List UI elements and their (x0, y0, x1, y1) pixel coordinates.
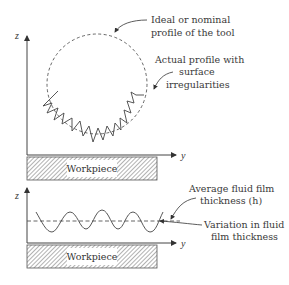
top-panel: z y Workpiece Ideal or nominal profile o… (14, 14, 244, 180)
tool-fluid-film-diagram: z y Workpiece Ideal or nominal profile o… (0, 0, 289, 285)
bottom-y-axis-label: y (180, 238, 186, 249)
bottom-panel: z y Workpiece Average fluid film thickne… (14, 183, 284, 268)
top-z-axis-label: z (14, 30, 19, 41)
actual-tool-profile (43, 91, 144, 142)
top-y-axis-label: y (180, 150, 186, 161)
ideal-profile-label-line1: Ideal or nominal (151, 14, 230, 25)
bottom-workpiece-label: Workpiece (67, 251, 118, 262)
actual-profile-label-line1: Actual profile with (154, 54, 244, 65)
average-film-arrow (171, 198, 196, 219)
ideal-profile-arrow (115, 20, 147, 32)
average-film-label-line1: Average fluid film (188, 183, 274, 194)
bottom-z-axis-label: z (14, 190, 19, 201)
ideal-profile-label-line2: profile of the tool (151, 27, 235, 38)
top-workpiece-label: Workpiece (67, 163, 118, 174)
variation-film-label-line1: Variation in fluid (203, 219, 284, 230)
variation-film-label-line2: film thickness (211, 231, 278, 242)
top-workpiece: Workpiece (27, 157, 157, 180)
actual-profile-label-line3: irregularities (166, 79, 230, 90)
actual-profile-label-line2: surface (179, 66, 215, 77)
bottom-workpiece: Workpiece (27, 245, 157, 268)
ideal-tool-profile (47, 34, 147, 134)
variation-film-arrow (160, 221, 202, 225)
average-film-label-line2: thickness (h) (200, 195, 262, 206)
